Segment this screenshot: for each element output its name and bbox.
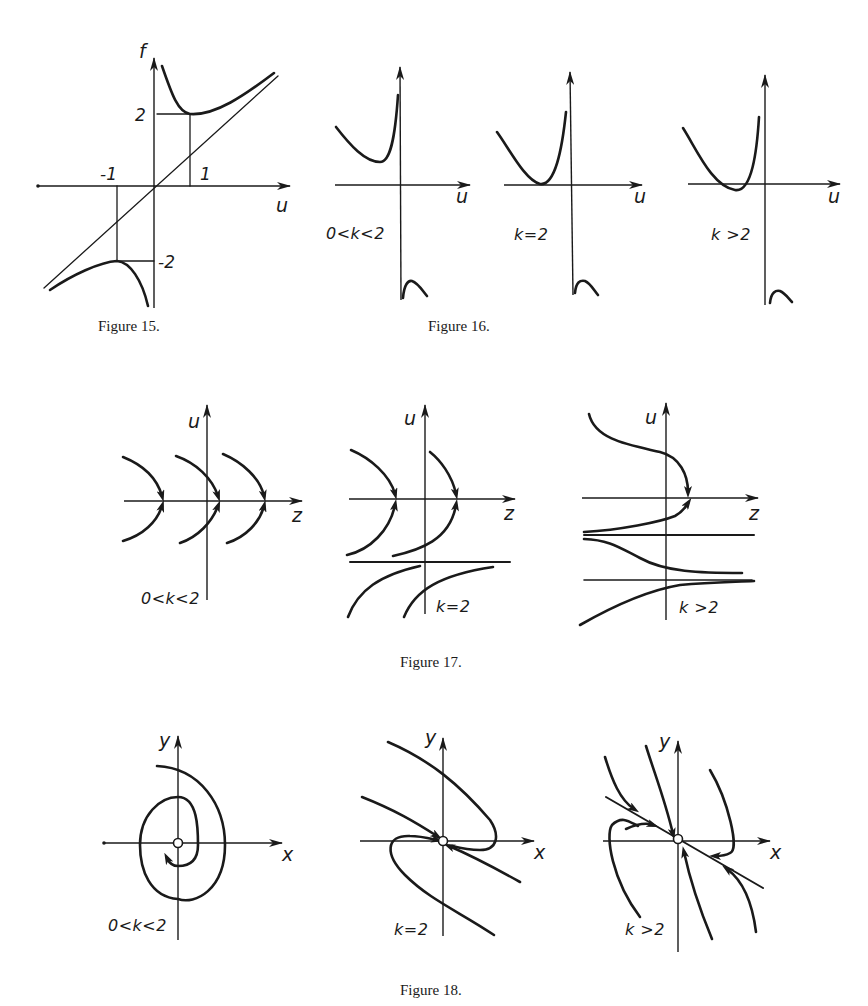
- curve-lower-branch: [50, 261, 148, 306]
- condition-label: 0<k<2: [141, 589, 200, 608]
- tick-label-u-1: 1: [200, 164, 211, 184]
- figure-17-panel-3: u z k >2: [580, 403, 760, 625]
- condition-label: 0<k<2: [326, 224, 385, 243]
- figure-18-panel-3: y x k >2: [603, 730, 782, 952]
- figure-canvas: f u -1 1 2 -2 u 0<k<2 u k=2 u k >2: [0, 0, 868, 1006]
- u-axis-label: u: [645, 406, 657, 428]
- f-axis-label: f: [139, 40, 149, 62]
- figure-18-caption: Figure 18.: [400, 982, 462, 999]
- z-axis-label: z: [748, 502, 760, 524]
- u-axis-label: u: [188, 410, 200, 432]
- condition-label: k >2: [679, 598, 719, 617]
- x-axis-label: x: [769, 841, 782, 863]
- y-axis-label: y: [158, 729, 171, 751]
- figure-18-panel-1: y x 0<k<2: [102, 729, 294, 940]
- figure-18-panel-2: y x k=2: [360, 726, 546, 939]
- condition-label: 0<k<2: [108, 916, 167, 935]
- u-axis-label: u: [404, 407, 416, 429]
- condition-label: k=2: [394, 920, 428, 939]
- x-axis-label: x: [533, 841, 546, 863]
- tick-label-f-neg2: -2: [158, 252, 175, 272]
- curve-upper-branch: [162, 66, 274, 114]
- figure-17-caption: Figure 17.: [400, 654, 462, 671]
- condition-label: k >2: [625, 920, 665, 939]
- tick-label-f-2: 2: [135, 105, 146, 125]
- z-axis-label: z: [291, 504, 303, 526]
- u-axis-label: u: [276, 194, 288, 216]
- y-axis-label: y: [658, 730, 671, 752]
- figure-16-panel-3: u k >2: [683, 75, 840, 305]
- condition-label: k >2: [711, 225, 751, 244]
- condition-label: k=2: [514, 225, 548, 244]
- guide-u1: [157, 114, 190, 186]
- figure-15-caption: Figure 15.: [98, 318, 160, 335]
- u-axis-label: u: [456, 185, 468, 207]
- figure-17-panel-2: u z k=2: [347, 405, 515, 617]
- figure-16-panel-2: u k=2: [497, 72, 646, 295]
- x-axis-label: x: [281, 843, 294, 865]
- tick-label-u-neg1: -1: [100, 164, 117, 184]
- u-axis-label: u: [828, 185, 840, 207]
- figure-17-panel-1: u z 0<k<2: [123, 405, 303, 608]
- figure-15-plot: f u -1 1 2 -2: [36, 40, 290, 308]
- u-axis-label: u: [634, 185, 646, 207]
- y-axis-label: y: [424, 726, 437, 748]
- figure-16-panel-1: u 0<k<2: [326, 67, 470, 300]
- guide-u-neg1: [117, 186, 154, 261]
- figure-16-caption: Figure 16.: [428, 318, 490, 335]
- z-axis-label: z: [503, 502, 515, 524]
- condition-label: k=2: [436, 597, 470, 616]
